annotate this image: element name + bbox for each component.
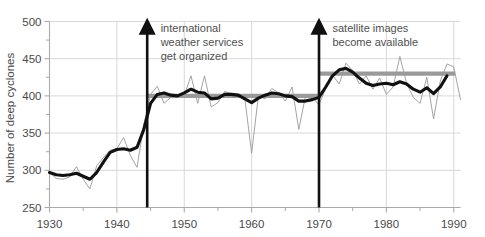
international-weather-services-text-line-3: get organized xyxy=(161,50,228,62)
chart-canvas: 250300350400450500 193019401950196019701… xyxy=(0,0,485,237)
x-tick-label-1980: 1980 xyxy=(374,218,400,230)
satellite-images-text-line-1: satellite images xyxy=(332,22,408,34)
y-tick-label-400: 400 xyxy=(22,90,41,102)
cyclone-trend-chart: 250300350400450500 193019401950196019701… xyxy=(0,0,485,237)
x-tick-label-1950: 1950 xyxy=(171,218,197,230)
international-weather-services-text-line-1: international xyxy=(161,22,221,34)
y-tick-label-300: 300 xyxy=(22,164,41,176)
y-tick-label-500: 500 xyxy=(22,16,41,28)
y-tick-label-250: 250 xyxy=(22,202,41,214)
satellite-images-text-line-2: become available xyxy=(332,36,418,48)
x-tick-label-1940: 1940 xyxy=(104,218,130,230)
x-tick-label-1960: 1960 xyxy=(239,218,265,230)
international-weather-services-text-line-2: weather services xyxy=(160,36,244,48)
x-tick-label-1930: 1930 xyxy=(37,218,63,230)
y-tick-label-350: 350 xyxy=(22,127,41,139)
y-tick-label-450: 450 xyxy=(22,53,41,65)
x-tick-label-1970: 1970 xyxy=(306,218,332,230)
x-tick-label-1990: 1990 xyxy=(441,218,467,230)
y-axis-title: Number of deep cyclones xyxy=(4,53,16,184)
